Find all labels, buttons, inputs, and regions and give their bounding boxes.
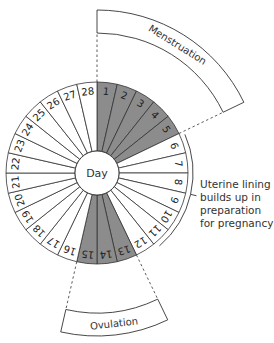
annotation-line: preparation — [200, 204, 274, 217]
annotation-line: builds up in — [200, 191, 274, 204]
dashed-connector — [66, 262, 77, 310]
day-number: 14 — [99, 248, 113, 260]
menstrual-cycle-diagram: MenstruationOvulation 123456789101112131… — [0, 0, 274, 343]
day-number: 21 — [9, 175, 21, 189]
day-number: 1 — [102, 86, 110, 98]
day-number: 22 — [9, 157, 21, 171]
annotation-line: Uterine lining — [200, 178, 274, 191]
annotation-text: Uterine lining builds up in preparation … — [200, 178, 274, 230]
annotation-line: for pregnancy — [200, 217, 274, 230]
day-number: 28 — [81, 85, 95, 97]
day-number: 15 — [81, 248, 95, 260]
center-label: Day — [86, 167, 108, 180]
dashed-connector — [136, 255, 157, 299]
day-number: 8 — [173, 178, 185, 186]
dashed-connector — [179, 112, 223, 133]
day-number: 7 — [173, 160, 185, 168]
